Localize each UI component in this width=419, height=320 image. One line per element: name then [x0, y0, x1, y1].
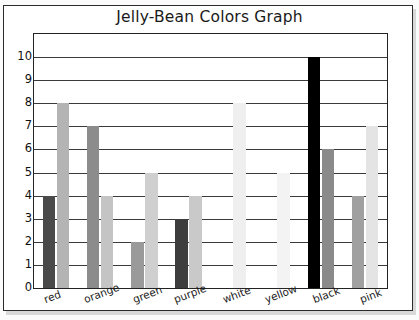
bar	[145, 173, 158, 289]
y-axis-tick-label: 1	[6, 257, 32, 271]
y-axis-tick-label: 7	[6, 118, 32, 132]
bars-layer	[34, 57, 387, 288]
bar	[366, 126, 379, 288]
plot-area	[34, 57, 387, 288]
bar	[189, 196, 202, 288]
chart-screenshot: Jelly-Bean Colors Graph 109876543210 red…	[0, 0, 419, 320]
bar	[57, 103, 70, 288]
bar	[131, 242, 144, 288]
x-axis: redorangegreenpurplewhiteyellowblackpink	[34, 290, 387, 320]
bar	[308, 57, 321, 288]
bar	[175, 219, 188, 288]
y-axis-tick-label: 9	[6, 72, 32, 86]
y-axis: 109876543210	[0, 0, 32, 320]
bar	[87, 126, 100, 288]
y-axis-tick-label: 10	[6, 49, 32, 63]
bar	[101, 196, 114, 288]
y-axis-tick-label: 8	[6, 95, 32, 109]
bar	[43, 196, 56, 288]
y-axis-tick-label: 6	[6, 141, 32, 155]
x-axis-tick-label: red	[42, 288, 62, 305]
y-axis-tick-label: 5	[6, 165, 32, 179]
y-axis-tick-label: 4	[6, 188, 32, 202]
y-axis-tick-label: 0	[6, 280, 32, 294]
y-axis-tick-label: 3	[6, 211, 32, 225]
bar	[352, 196, 365, 288]
bar	[277, 173, 290, 289]
bar	[322, 149, 335, 288]
bar	[233, 103, 246, 288]
chart-title: Jelly-Bean Colors Graph	[0, 8, 419, 26]
y-axis-tick-label: 2	[6, 234, 32, 248]
